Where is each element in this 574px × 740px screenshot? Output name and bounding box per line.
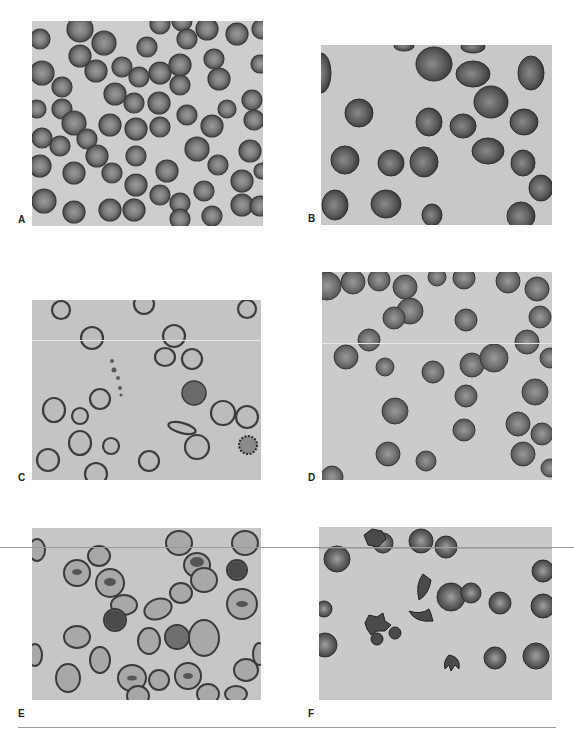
micrograph-panel-b (321, 45, 552, 225)
cells-c (32, 300, 261, 480)
micrograph-panel-c (32, 300, 261, 480)
micrograph-panel-e (32, 528, 261, 700)
panel-label-a: A (18, 214, 25, 225)
cells-d (322, 272, 552, 480)
figure-caption (18, 734, 556, 740)
scan-artifact-line-horizontal (0, 547, 574, 548)
micrograph-panel-a (32, 21, 263, 226)
panel-label-e: E (18, 708, 25, 719)
micrograph-panel-f (319, 527, 552, 700)
panel-label-b: B (308, 213, 315, 224)
panel-label-f: F (308, 708, 314, 719)
cells-b (321, 45, 552, 225)
cells-f (319, 527, 552, 700)
cells-a (32, 21, 263, 226)
panel-label-c: C (18, 472, 25, 483)
cells-e (32, 528, 261, 700)
micrograph-panel-d (322, 272, 552, 480)
scan-artifact-line-d (322, 343, 552, 344)
scan-artifact-line (32, 340, 261, 341)
panel-label-d: D (308, 472, 315, 483)
caption-divider (18, 727, 556, 728)
